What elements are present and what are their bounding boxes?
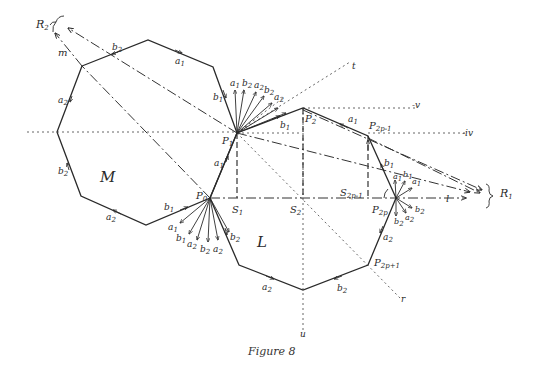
svg-text:b2: b2	[242, 78, 253, 90]
region-label-L: L	[256, 233, 267, 251]
svg-text:P2p: P2p	[371, 204, 388, 217]
svg-text:-iv: -iv	[462, 128, 473, 138]
svg-text:S1: S1	[232, 204, 243, 217]
svg-text:R1: R1	[499, 187, 513, 201]
brace-R1	[486, 184, 493, 208]
svg-text:a1: a1	[393, 172, 402, 183]
svg-text:a2: a2	[58, 95, 68, 107]
svg-text:b2: b2	[58, 166, 69, 178]
svg-text:a1: a1	[175, 56, 185, 68]
svg-text:a2: a2	[106, 212, 116, 224]
svg-text:b2: b2	[394, 217, 404, 228]
brace-R2	[50, 16, 64, 32]
svg-text:b1: b1	[164, 202, 174, 214]
figure-caption: Figure 8	[247, 345, 296, 358]
svg-text:P1: P1	[221, 135, 233, 148]
ray-to-R1-a	[237, 133, 470, 192]
svg-text:l: l	[446, 193, 449, 204]
vector-fan-P0	[180, 198, 229, 242]
svg-text:P2p+1: P2p+1	[373, 257, 400, 270]
region-label-M: M	[99, 168, 116, 186]
svg-text:b2: b2	[337, 283, 348, 295]
edge-arrows	[67, 50, 384, 279]
svg-text:b1: b1	[280, 120, 290, 132]
svg-text:a1: a1	[412, 177, 421, 188]
svg-text:P2: P2	[304, 113, 317, 126]
svg-text:b1: b1	[176, 233, 186, 245]
reference-lines	[27, 62, 468, 330]
svg-text:a2: a2	[254, 80, 264, 92]
fan-labels-P0: a1 b1 a2 b2 a2	[168, 222, 223, 256]
svg-text:a1: a1	[230, 78, 240, 90]
svg-text:a1: a1	[348, 114, 358, 126]
svg-text:b1: b1	[213, 92, 223, 104]
figure-8-diagram: M L P1 P0 P2 P2p-1 P2p P2p+1 S1 S2 S2p-1…	[0, 0, 538, 376]
svg-text:t: t	[352, 61, 356, 71]
svg-text:m: m	[58, 47, 67, 58]
svg-text:P2p-1: P2p-1	[368, 120, 392, 133]
fan-labels-P1: a1 b2 a2 b2 a2	[230, 78, 284, 104]
svg-text:a1: a1	[214, 158, 224, 170]
svg-text:r: r	[401, 294, 406, 304]
svg-text:b2: b2	[112, 42, 123, 54]
ray-to-R2-upper	[68, 28, 237, 133]
svg-text:b2: b2	[415, 205, 425, 216]
svg-text:a2: a2	[383, 232, 393, 244]
svg-text:b2: b2	[230, 232, 241, 244]
svg-text:u: u	[300, 329, 306, 339]
svg-text:a2: a2	[213, 244, 223, 256]
svg-text:b2: b2	[200, 244, 211, 256]
svg-text:a2: a2	[262, 282, 272, 294]
svg-text:b1: b1	[384, 158, 394, 170]
svg-text:a2: a2	[187, 239, 197, 251]
angle-arc	[384, 189, 388, 198]
line-t-segment	[237, 98, 283, 133]
svg-text:-v: -v	[412, 100, 420, 110]
svg-text:R2: R2	[35, 18, 49, 32]
point-labels: P1 P0 P2 P2p-1 P2p P2p+1 S1 S2 S2p-1	[195, 113, 400, 270]
svg-text:a2: a2	[274, 92, 284, 104]
svg-text:S2: S2	[290, 204, 302, 217]
svg-text:a2: a2	[405, 213, 415, 224]
